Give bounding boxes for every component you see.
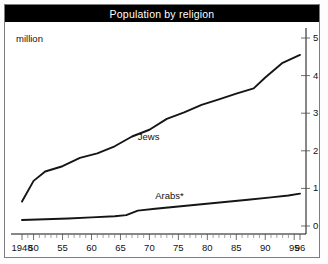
y-tick-label: 1 <box>313 182 325 193</box>
series-label-arabs: Arabs* <box>155 190 184 201</box>
x-tick-label: 90 <box>252 242 278 253</box>
chart-figure: Population by religion million 012345 19… <box>0 0 328 264</box>
x-tick-label: 70 <box>136 242 162 253</box>
page-title: Population by religion <box>110 8 215 20</box>
y-tick-label: 4 <box>313 70 325 81</box>
x-tick-label: 96 <box>287 242 313 253</box>
y-axis-unit-label: million <box>16 33 43 44</box>
y-tick-label: 2 <box>313 145 325 156</box>
x-tick-label: 60 <box>79 242 105 253</box>
x-tick-label: 50 <box>21 242 47 253</box>
x-tick-label: 80 <box>194 242 220 253</box>
x-tick-label: 55 <box>50 242 76 253</box>
y-tick-label: 0 <box>313 220 325 231</box>
chart-title-bar: Population by religion <box>5 5 319 22</box>
series-label-jews: Jews <box>138 131 160 142</box>
x-tick-label: 75 <box>165 242 191 253</box>
y-tick-label: 5 <box>313 32 325 43</box>
x-tick-label: 85 <box>223 242 249 253</box>
x-tick-label: 65 <box>107 242 133 253</box>
y-tick-label: 3 <box>313 107 325 118</box>
chart-frame <box>4 4 320 258</box>
